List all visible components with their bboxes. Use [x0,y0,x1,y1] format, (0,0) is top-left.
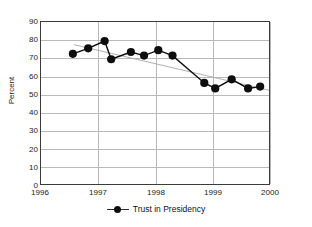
gridline-2000 [270,22,271,184]
x-tick-1999: 1999 [193,188,233,197]
x-tick-1996: 1996 [20,188,60,197]
data-point-marker [200,79,208,87]
legend-marker-icon [107,205,129,214]
data-point-marker [69,50,77,58]
y-tick-80: 80 [14,36,38,44]
y-tick-90: 90 [14,18,38,26]
data-point-marker [154,46,162,54]
chart-title [0,0,312,1]
data-point-marker [107,55,115,63]
data-point-marker [140,52,148,60]
data-point-marker [244,84,252,92]
x-tick-1998: 1998 [136,188,176,197]
y-tick-20: 20 [14,146,38,154]
chart-root: Percent 90 80 70 60 50 40 30 20 10 0 199… [0,0,312,227]
data-point-marker [211,84,219,92]
data-point-marker [256,83,264,91]
x-tick-2000: 2000 [250,188,290,197]
y-tick-10: 10 [14,164,38,172]
x-tick-1997: 1997 [78,188,118,197]
y-tick-60: 60 [14,73,38,81]
data-point-marker [84,44,92,52]
data-point-marker [228,75,236,83]
y-tick-70: 70 [14,54,38,62]
data-point-marker [127,48,135,56]
data-point-marker [101,37,109,45]
y-tick-30: 30 [14,127,38,135]
y-tick-40: 40 [14,109,38,117]
y-tick-50: 50 [14,91,38,99]
data-point-marker [168,52,176,60]
data-series-layer [40,21,270,185]
legend-label-trust-in-presidency: Trust in Presidency [133,205,205,214]
chart-legend: Trust in Presidency [0,205,312,214]
